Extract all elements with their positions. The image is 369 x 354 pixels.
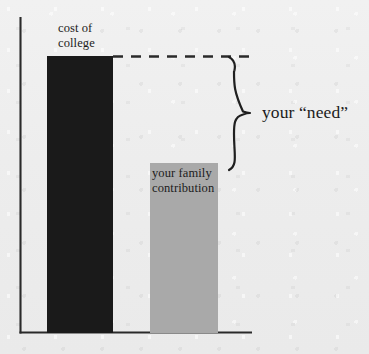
cost-of-college-figure: cost of college your family contribution… — [0, 0, 369, 354]
your-need-label: your “need” — [262, 102, 348, 123]
bar-cost-of-college — [47, 56, 113, 333]
need-brace — [229, 57, 250, 170]
family-contribution-label: your family contribution — [152, 166, 214, 196]
cost-of-college-label: cost of college — [58, 21, 95, 51]
